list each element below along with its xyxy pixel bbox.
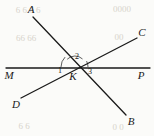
angle-label-2: 2: [75, 53, 79, 61]
point-label-p: P: [138, 70, 145, 81]
point-label-m: M: [4, 70, 13, 81]
angle-label-3: 3: [88, 68, 92, 76]
point-label-d: D: [12, 99, 20, 110]
geometry-figure: 6 6 6 6000066 66006 60 0 ACMPKDB 123: [0, 0, 154, 136]
point-label-k: K: [69, 71, 76, 82]
bleed-3: 66 66: [16, 34, 36, 43]
line-AB: [33, 17, 126, 115]
point-label-c: C: [138, 27, 145, 38]
bleed-2: 0000: [113, 5, 131, 14]
point-label-b: B: [128, 116, 135, 127]
bleed-4: 00: [115, 33, 124, 42]
bleed-5: 6 6: [18, 122, 29, 131]
angle-label-1: 1: [58, 67, 62, 75]
point-label-a: A: [28, 4, 35, 15]
bleed-6: 0 0: [112, 123, 123, 132]
